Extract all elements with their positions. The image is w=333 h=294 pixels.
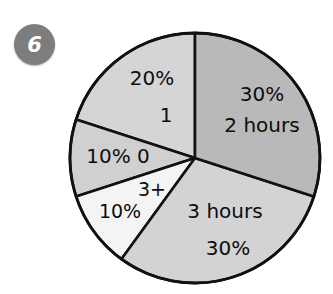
slice-label-2-hours-name: 2 hours xyxy=(224,113,299,137)
slice-label-1-percent: 20% xyxy=(130,66,174,90)
slice-label-2-hours-percent: 30% xyxy=(240,82,284,106)
pie-chart-svg: 30% 2 hours 3 hours 30% 3+ 10% 10% 0 20%… xyxy=(0,0,333,294)
slice-label-3plus-percent: 10% xyxy=(99,200,141,222)
slice-label-3-hours-percent: 30% xyxy=(206,236,250,260)
slice-label-zero: 10% 0 xyxy=(86,144,150,168)
slice-label-3plus-name: 3+ xyxy=(138,178,166,200)
pie-chart-figure: 6 30% 2 hours 3 hours 30% 3+ 10% 10% 0 2… xyxy=(0,0,333,294)
slice-label-3-hours-name: 3 hours xyxy=(187,199,262,223)
slice-label-1-name: 1 xyxy=(160,103,173,127)
